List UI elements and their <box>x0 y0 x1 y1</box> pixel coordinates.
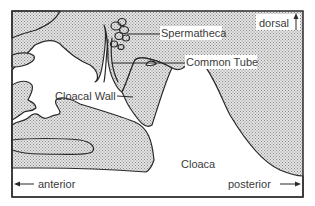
posterior-label: posterior <box>228 178 271 190</box>
anterior-label: anterior <box>38 178 76 190</box>
cloaca-label: Cloaca <box>181 158 216 170</box>
dorsal-label: dorsal <box>259 17 289 29</box>
spermatheca-label: Spermatheca <box>161 27 227 39</box>
cloacal-wall-label: Cloacal Wall <box>55 90 116 102</box>
common-tube-label: Common Tube <box>186 56 258 68</box>
cloaca-diagram: Spermatheca Common Tube Cloacal Wall Clo… <box>0 0 315 206</box>
inner-fold <box>12 139 94 155</box>
